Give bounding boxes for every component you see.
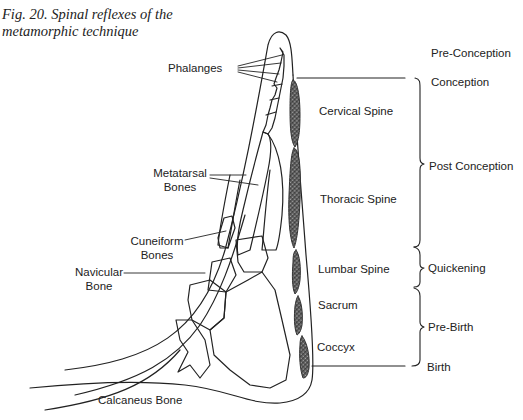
- label-lumbar-spine: Lumbar Spine: [318, 262, 390, 276]
- label-navicular-line2: Bone: [72, 279, 126, 293]
- label-post-conception: Post Conception: [429, 159, 513, 173]
- quickening-brace: [414, 247, 424, 287]
- label-cuneiform-line1: Cuneiform: [128, 234, 186, 248]
- spinal-reflex-shading: [289, 80, 309, 378]
- stage-brackets: [297, 78, 424, 366]
- label-birth: Birth: [427, 360, 451, 374]
- label-navicular-line1: Navicular: [72, 265, 126, 279]
- post-conception-brace: [414, 78, 424, 247]
- label-metatarsal-line1: Metatarsal: [150, 166, 210, 180]
- thoracic-reflex-area: [289, 148, 301, 248]
- calcaneus-bone: [176, 272, 290, 388]
- label-pre-birth: Pre-Birth: [428, 320, 473, 334]
- phalanges-bones: [263, 48, 284, 134]
- label-sacrum: Sacrum: [318, 298, 358, 312]
- label-conception: Conception: [431, 75, 489, 89]
- label-calcaneus-bone: Calcaneus Bone: [98, 393, 182, 407]
- pre-birth-brace: [412, 288, 424, 366]
- foot-outline: [30, 32, 313, 410]
- metatarsal-bones: [218, 132, 283, 255]
- label-navicular-bone: Navicular Bone: [72, 265, 126, 293]
- label-metatarsal-bones: Metatarsal Bones: [150, 166, 210, 194]
- label-metatarsal-line2: Bones: [150, 180, 210, 194]
- label-pre-conception: Pre-Conception: [431, 46, 511, 60]
- label-coccyx: Coccyx: [317, 340, 355, 354]
- label-thoracic-spine: Thoracic Spine: [320, 192, 397, 206]
- sacrum-reflex-area: [294, 296, 302, 335]
- label-cuneiform-bones: Cuneiform Bones: [128, 234, 186, 262]
- coccyx-reflex-area: [300, 336, 310, 378]
- label-cuneiform-line2: Bones: [128, 248, 186, 262]
- label-quickening: Quickening: [428, 261, 486, 275]
- foot-diagram: [0, 0, 523, 420]
- cervical-reflex-area: [290, 80, 300, 147]
- label-phalanges: Phalanges: [168, 61, 222, 75]
- lumbar-reflex-area: [292, 250, 300, 294]
- label-cervical-spine: Cervical Spine: [319, 104, 393, 118]
